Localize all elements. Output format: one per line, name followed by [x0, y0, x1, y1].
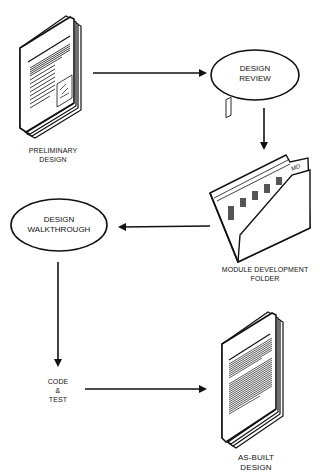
- design-review-text: DESIGN REVIEW: [215, 64, 295, 84]
- module-development-folder-icon: MD: [210, 97, 310, 262]
- design-flow-diagram: MD: [0, 0, 320, 474]
- as-built-design-label: AS-BUILT DESIGN: [226, 453, 286, 473]
- label-line: DESIGN: [18, 155, 88, 164]
- preliminary-design-document-icon: [20, 16, 81, 138]
- code-and-test-label: CODE & TEST: [38, 377, 78, 404]
- label-line: AS-BUILT: [226, 453, 286, 463]
- preliminary-design-label: PRELIMINARY DESIGN: [18, 146, 88, 164]
- label-line: FOLDER: [210, 274, 320, 283]
- label-line: PRELIMINARY: [18, 146, 88, 155]
- label-line: TEST: [38, 395, 78, 404]
- label-line: MODULE DEVELOPMENT: [210, 265, 320, 274]
- edge-arrow: [120, 226, 210, 227]
- module-development-folder-label: MODULE DEVELOPMENT FOLDER: [210, 265, 320, 283]
- label-line: REVIEW: [215, 74, 295, 84]
- label-line: WALKTHROUGH: [14, 225, 104, 235]
- label-line: CODE: [38, 377, 78, 386]
- label-line: DESIGN: [215, 64, 295, 74]
- as-built-design-document-icon: [222, 312, 283, 448]
- design-walkthrough-text: DESIGN WALKTHROUGH: [14, 215, 104, 235]
- label-line: DESIGN: [226, 463, 286, 473]
- label-line: &: [38, 386, 78, 395]
- label-line: DESIGN: [14, 215, 104, 225]
